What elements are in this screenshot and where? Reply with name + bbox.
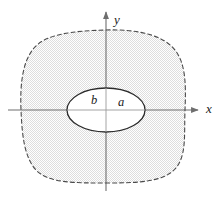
figure-container: x y b a (0, 0, 224, 206)
y-axis-label: y (112, 12, 120, 27)
math-figure: x y b a (0, 0, 224, 206)
x-axis-label: x (205, 101, 212, 116)
label-b: b (91, 93, 97, 107)
label-a: a (118, 95, 124, 109)
